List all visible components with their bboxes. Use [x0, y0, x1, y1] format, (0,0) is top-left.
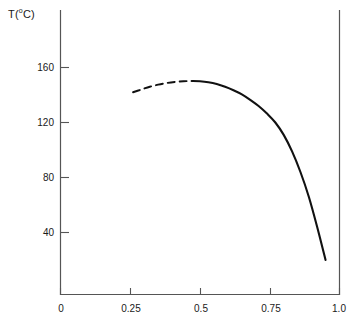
y-axis-title: T(oC)	[8, 8, 35, 20]
y-axis-title-unit: C)	[23, 8, 35, 20]
chart-figure: T(oC) 160 120 80 40 0 0.25 0.5 0.75	[0, 0, 357, 329]
y-tick-label-80: 80	[28, 172, 54, 183]
y-axis-title-main: T(	[8, 8, 19, 20]
plot-area	[0, 0, 357, 329]
y-tick-marks	[60, 68, 69, 233]
x-tick-label-10: 1.0	[332, 303, 346, 314]
series-line-measured	[192, 81, 326, 260]
series-line-extrapolated	[133, 81, 192, 92]
x-tick-label-05: 0.5	[194, 303, 208, 314]
y-tick-label-120: 120	[28, 117, 54, 128]
x-tick-label-075: 0.75	[261, 303, 280, 314]
x-tick-label-0: 0	[58, 303, 64, 314]
y-tick-label-40: 40	[28, 227, 54, 238]
x-tick-label-025: 0.25	[121, 303, 140, 314]
axes	[60, 10, 340, 295]
y-tick-label-160: 160	[28, 62, 54, 73]
data-series-group	[133, 81, 326, 260]
